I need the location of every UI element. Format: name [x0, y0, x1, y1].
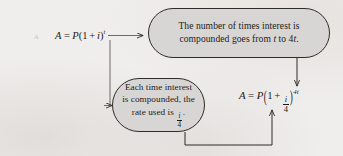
formula-source-equals: = — [64, 30, 70, 41]
formula-result-close-paren: ) — [290, 86, 293, 106]
formula-result-open-paren: ( — [264, 86, 267, 106]
connector-source-to-bottom-box — [107, 40, 110, 106]
node-bottom-box-text: Each time interest is compounded, the ra… — [118, 81, 199, 129]
node-top-box-line2-part2: to 4 — [276, 33, 293, 44]
compound-interest-flowchart: A A=P(1+i)t The number of times interest… — [0, 0, 343, 156]
result-formula: A=P(1+i4)4t — [239, 88, 299, 114]
node-bottom-box-line3-suffix: . — [183, 107, 185, 117]
node-bottom-box-line1: Each time interest — [125, 82, 192, 92]
node-top-box-line2-part1: compounded goes from — [179, 33, 273, 44]
source-formula: A=P(1+i)t — [55, 28, 105, 41]
node-top-box-line1: The number of times interest is — [178, 20, 299, 31]
formula-result-equals: = — [248, 89, 254, 101]
formula-result-one: 1 — [267, 89, 272, 101]
node-top-box-text: The number of times interest is compound… — [172, 20, 305, 45]
formula-result-P: P — [257, 89, 264, 101]
node-bottom-box-fraction-numerator: i — [177, 113, 181, 120]
node-bottom-box-line2: is compounded, the — [122, 94, 195, 104]
formula-result-fraction-denominator: 4 — [283, 105, 289, 114]
node-bottom-box-fraction: i4 — [177, 113, 183, 130]
formula-result-plus: + — [274, 89, 280, 101]
formula-result-exponent: 4t — [293, 88, 298, 95]
node-bottom-box-line3-prefix: rate used is — [132, 107, 176, 117]
formula-result-fraction: i4 — [283, 95, 289, 114]
formula-source-one: 1 — [82, 30, 87, 41]
formula-source-A: A — [55, 30, 61, 41]
node-top-box-line2-end: . — [296, 33, 298, 44]
formula-result-fraction-numerator: i — [284, 95, 288, 104]
node-bottom-box-fraction-denominator: 4 — [177, 122, 183, 129]
formula-source-plus: + — [89, 30, 95, 41]
node-bottom-box: Each time interest is compounded, the ra… — [112, 78, 205, 132]
node-top-box: The number of times interest is compound… — [148, 8, 330, 58]
formula-source-exponent: t — [103, 28, 105, 35]
formula-result-A: A — [239, 89, 246, 101]
